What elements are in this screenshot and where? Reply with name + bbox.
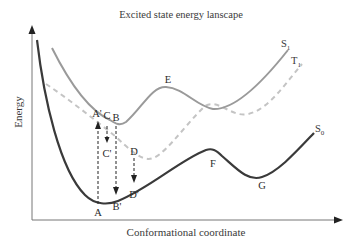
point-label-D: D: [130, 146, 138, 157]
point-label-D-prime: D': [129, 189, 139, 200]
state-label-S0: S0: [315, 123, 325, 137]
down-arrowhead-icon: [105, 137, 110, 143]
x-axis-arrow-icon: [334, 217, 343, 224]
point-label-E: E: [165, 74, 171, 85]
state-label-S1: S1: [281, 38, 291, 52]
x-axis-label: Conformational coordinate: [127, 226, 246, 238]
s0-curve: [37, 40, 314, 203]
point-label-B: B: [112, 112, 119, 123]
point-label-B-prime: B': [113, 201, 122, 212]
y-axis-label: Energy: [12, 96, 24, 128]
energy-landscape-diagram: Excited state energy lanscape Conformati…: [0, 0, 362, 246]
diagram-title: Excited state energy lanscape: [119, 9, 243, 20]
down-arrowhead-icon: [113, 187, 119, 195]
point-label-C: C: [103, 110, 110, 121]
point-label-G: G: [258, 180, 266, 191]
y-axis-arrow-icon: [29, 25, 36, 34]
point-label-A: A: [94, 207, 102, 218]
state-label-T1: T1: [291, 55, 301, 69]
point-label-A-prime: A': [92, 108, 102, 119]
point-label-C-prime: C': [103, 148, 112, 159]
point-label-F: F: [210, 158, 216, 169]
down-arrowhead-icon: [131, 175, 137, 183]
